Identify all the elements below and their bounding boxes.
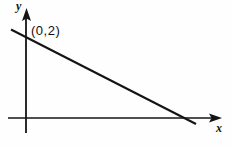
coordinate-graph-figure: y x (0,2)	[0, 0, 232, 147]
x-axis-label: x	[216, 122, 222, 134]
y-intercept-point-label: (0,2)	[31, 24, 60, 37]
y-axis-label: y	[16, 0, 21, 12]
plotted-line	[11, 30, 196, 125]
